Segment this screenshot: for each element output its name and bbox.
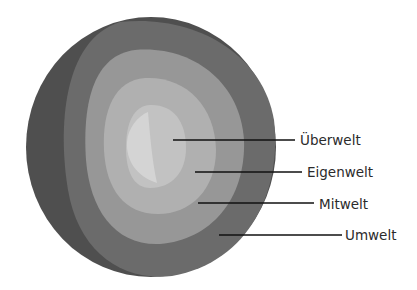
world-layers-diagram: Überwelt Eigenwelt Mitwelt Umwelt xyxy=(0,0,417,290)
label-umwelt: Umwelt xyxy=(345,227,396,243)
label-eigenwelt: Eigenwelt xyxy=(307,164,373,180)
label-mitwelt: Mitwelt xyxy=(319,196,368,212)
label-ueberwelt: Überwelt xyxy=(300,131,361,148)
